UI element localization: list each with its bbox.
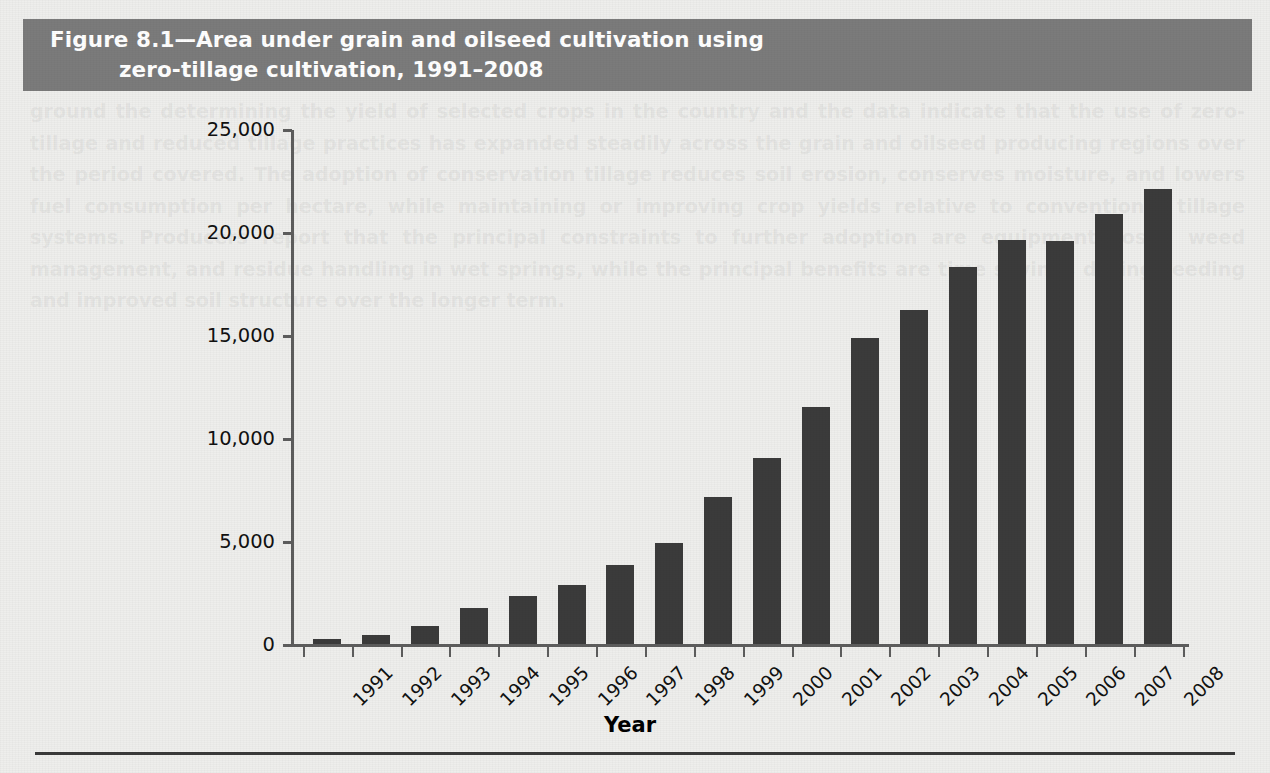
bar	[558, 585, 586, 645]
y-axis-tick-label: 0	[263, 633, 275, 656]
y-axis-tick-label: 10,000	[207, 427, 275, 450]
x-axis-tick	[401, 647, 403, 657]
x-axis-tick-label: 1991	[349, 662, 397, 710]
bar	[949, 267, 977, 645]
bar	[606, 565, 634, 645]
bar-chart: 25,00020,00015,00010,0005,0000 199119921…	[0, 0, 1270, 773]
y-axis-line	[291, 130, 294, 647]
x-axis-tick	[547, 647, 549, 657]
x-axis-tick-label: 1994	[496, 662, 544, 710]
x-axis-tick-label: 2000	[789, 662, 837, 710]
plot-area	[292, 130, 1189, 645]
x-axis-tick-label: 2003	[936, 662, 984, 710]
y-axis-tick-label: 5,000	[219, 530, 275, 553]
y-axis-tick	[283, 335, 292, 338]
x-axis-title: Year	[604, 713, 656, 737]
bar	[655, 543, 683, 645]
x-axis-tick	[694, 647, 696, 657]
bar	[411, 626, 439, 645]
x-axis-tick-label: 1996	[593, 662, 641, 710]
x-axis-tick-label: 2007	[1131, 662, 1179, 710]
x-axis-tick-label: 2008	[1180, 662, 1228, 710]
y-axis-tick-label: 15,000	[207, 324, 275, 347]
bar	[509, 596, 537, 645]
x-axis-tick	[987, 647, 989, 657]
x-axis-tick-label: 1992	[398, 662, 446, 710]
x-axis-tick-label: 1999	[740, 662, 788, 710]
y-axis-tick	[283, 438, 292, 441]
x-axis-tick	[840, 647, 842, 657]
bar	[802, 407, 830, 645]
bar	[460, 608, 488, 645]
x-axis-tick	[1183, 647, 1185, 657]
x-axis-line	[291, 644, 1189, 647]
x-axis-tick	[596, 647, 598, 657]
x-axis-tick	[938, 647, 940, 657]
bar	[851, 338, 879, 645]
y-axis-tick	[283, 232, 292, 235]
x-axis-tick	[645, 647, 647, 657]
x-axis-tick	[449, 647, 451, 657]
bar	[998, 240, 1026, 645]
x-axis-tick-label: 2005	[1033, 662, 1081, 710]
x-axis-tick	[498, 647, 500, 657]
x-axis-tick-label: 1995	[545, 662, 593, 710]
figure-page: ground the determining the yield of sele…	[0, 0, 1270, 773]
x-axis-tick	[1036, 647, 1038, 657]
x-axis-tick-label: 2006	[1082, 662, 1130, 710]
x-axis-tick	[743, 647, 745, 657]
x-axis-tick	[889, 647, 891, 657]
x-axis-tick-label: 1993	[447, 662, 495, 710]
bar	[704, 497, 732, 645]
y-axis-tick-label: 20,000	[207, 221, 275, 244]
footer-rule	[35, 752, 1235, 755]
y-axis-tick-label: 25,000	[207, 118, 275, 141]
x-axis-tick	[303, 647, 305, 657]
x-axis-tick	[1134, 647, 1136, 657]
x-axis-tick-label: 1998	[691, 662, 739, 710]
bar	[753, 458, 781, 645]
bar	[1095, 214, 1123, 645]
x-axis-tick	[1085, 647, 1087, 657]
bar	[1144, 189, 1172, 645]
x-axis-tick	[352, 647, 354, 657]
x-axis-tick	[792, 647, 794, 657]
y-axis-tick	[283, 129, 292, 132]
x-axis-tick-label: 2004	[984, 662, 1032, 710]
bar	[900, 310, 928, 645]
y-axis-tick	[283, 644, 292, 647]
x-axis-tick-label: 1997	[642, 662, 690, 710]
x-axis-tick-label: 2001	[838, 662, 886, 710]
x-axis-tick-label: 2002	[887, 662, 935, 710]
y-axis-tick	[283, 541, 292, 544]
bar	[1046, 241, 1074, 645]
